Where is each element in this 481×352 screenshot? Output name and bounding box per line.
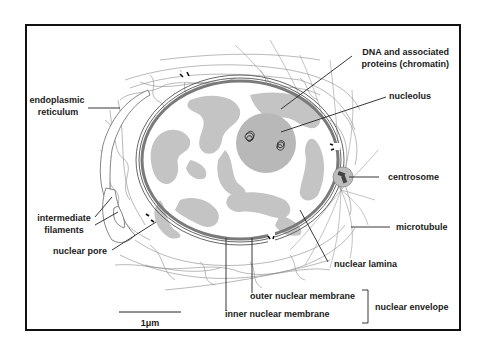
label-chromatin-line2: proteins (chromatin) <box>361 59 449 69</box>
label-inner-nuclear-membrane: inner nuclear membrane <box>225 309 330 319</box>
label-intermediate-filaments-line2: filaments <box>44 225 84 235</box>
label-outer-nuclear-membrane: outer nuclear membrane <box>250 291 355 301</box>
label-endoplasmic-reticulum-line2: reticulum <box>38 107 79 117</box>
label-endoplasmic-reticulum-line1: endoplasmic <box>29 95 84 105</box>
label-nuclear-lamina: nuclear lamina <box>334 259 398 269</box>
label-nucleolus: nucleolus <box>389 91 431 101</box>
nucleus-diagram: endoplasmic reticulum intermediate filam… <box>0 0 481 352</box>
label-nuclear-envelope: nuclear envelope <box>375 302 449 312</box>
nucleolus <box>236 113 296 173</box>
label-centrosome: centrosome <box>388 172 439 182</box>
label-scale-bar: 1μm <box>141 318 160 328</box>
label-chromatin-line1: DNA and associated <box>362 47 449 57</box>
label-nuclear-pore: nuclear pore <box>53 246 107 256</box>
label-intermediate-filaments-line1: intermediate <box>37 213 91 223</box>
label-microtubule: microtubule <box>396 222 448 232</box>
